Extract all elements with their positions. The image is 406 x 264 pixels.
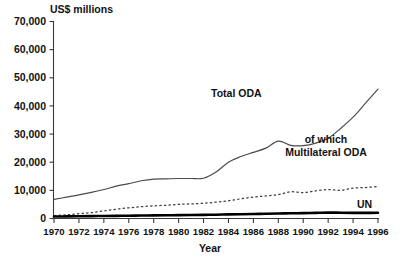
x-tick-label: 1984 xyxy=(218,226,240,237)
series-label-of-which: of which xyxy=(305,133,348,145)
series-label-multilateral-oda: Multilateral ODA xyxy=(285,146,367,158)
y-tick-label: 70,000 xyxy=(14,15,46,27)
y-tick-label: 20,000 xyxy=(14,156,46,168)
x-tick-label: 1994 xyxy=(342,226,364,237)
y-tick-label: 40,000 xyxy=(14,100,46,112)
x-tick-label: 1978 xyxy=(143,226,165,237)
x-tick-label: 1970 xyxy=(43,226,64,237)
x-tick-label: 1974 xyxy=(93,226,115,237)
x-axis-title: Year xyxy=(199,242,221,254)
y-tick-label: 60,000 xyxy=(14,43,46,55)
x-tick-label: 1980 xyxy=(168,226,189,237)
x-tick-label: 1992 xyxy=(317,226,338,237)
x-tick-label: 1976 xyxy=(118,226,139,237)
series-label-un: UN xyxy=(357,198,372,210)
chart-container: US$ millions 010,00020,00030,00040,00050… xyxy=(0,0,406,264)
y-tick-label: 0 xyxy=(40,212,46,224)
x-tick-label: 1982 xyxy=(193,226,214,237)
y-axis-title: US$ millions xyxy=(50,3,113,15)
series-label-total-oda: Total ODA xyxy=(211,87,262,99)
x-tick-label: 1990 xyxy=(293,226,314,237)
y-tick-label: 10,000 xyxy=(14,184,46,196)
chart-background xyxy=(0,0,406,264)
line-chart: US$ millions 010,00020,00030,00040,00050… xyxy=(0,0,406,264)
y-tick-label: 50,000 xyxy=(14,71,46,83)
x-tick-label: 1996 xyxy=(367,226,388,237)
x-tick-label: 1988 xyxy=(268,226,290,237)
y-tick-label: 30,000 xyxy=(14,128,46,140)
x-tick-label: 1986 xyxy=(243,226,264,237)
x-tick-label: 1972 xyxy=(68,226,89,237)
